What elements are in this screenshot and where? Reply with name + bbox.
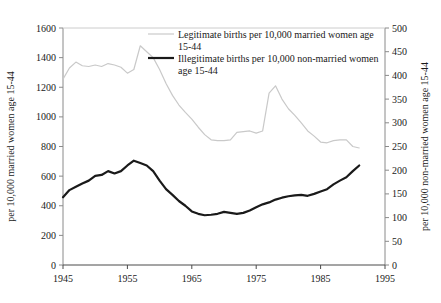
legend-label-legitimate-line1: Legitimate births per 10,000 married wom… — [178, 29, 374, 40]
y-tick-label-right: 300 — [392, 117, 407, 128]
y-tick-label-left: 800 — [41, 141, 56, 152]
y-tick-label-right: 250 — [392, 141, 407, 152]
x-tick-label: 1945 — [53, 273, 73, 284]
y-tick-label-right: 350 — [392, 94, 407, 105]
legend-label-legitimate-line2: 15-44 — [178, 41, 201, 52]
y-tick-label-left: 200 — [41, 230, 56, 241]
x-tick-label: 1995 — [375, 273, 395, 284]
y-tick-label-right: 0 — [392, 260, 397, 271]
x-tick-label: 1985 — [311, 273, 331, 284]
y-tick-label-right: 450 — [392, 46, 407, 57]
y-tick-label-left: 1000 — [36, 111, 56, 122]
legend-label-illegitimate-line1: Illegitimate births per 10,000 non-marri… — [178, 53, 379, 64]
y-tick-label-left: 400 — [41, 200, 56, 211]
y-tick-label-left: 1200 — [36, 82, 56, 93]
legend-label-illegitimate-line2: age 15-44 — [178, 65, 218, 76]
y-tick-label-right: 50 — [392, 236, 402, 247]
y-tick-label-left: 1400 — [36, 52, 56, 63]
y-tick-label-right: 400 — [392, 70, 407, 81]
y-tick-label-left: 0 — [51, 260, 56, 271]
x-tick-label: 1975 — [246, 273, 266, 284]
y-tick-label-right: 200 — [392, 165, 407, 176]
line-chart: 0200400600800100012001400160005010015020… — [0, 0, 441, 303]
y-axis-right-title: per 10,000 non-married women age 15-44 — [419, 62, 430, 231]
x-tick-label: 1965 — [182, 273, 202, 284]
series-line-1 — [63, 161, 359, 216]
y-tick-label-right: 150 — [392, 188, 407, 199]
y-axis-left-title: per 10,000 married women age 15-44 — [5, 71, 16, 222]
y-tick-label-left: 600 — [41, 171, 56, 182]
y-tick-label-left: 1600 — [36, 23, 56, 34]
y-tick-label-right: 500 — [392, 23, 407, 34]
y-tick-label-right: 100 — [392, 212, 407, 223]
x-tick-label: 1955 — [117, 273, 137, 284]
chart-container: 0200400600800100012001400160005010015020… — [0, 0, 441, 303]
